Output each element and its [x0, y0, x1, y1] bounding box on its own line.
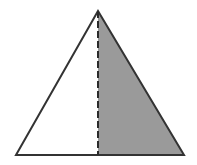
figure-canvas: Triangle with shaded right half divided …	[0, 0, 197, 165]
triangle-figure-svg	[0, 0, 197, 165]
